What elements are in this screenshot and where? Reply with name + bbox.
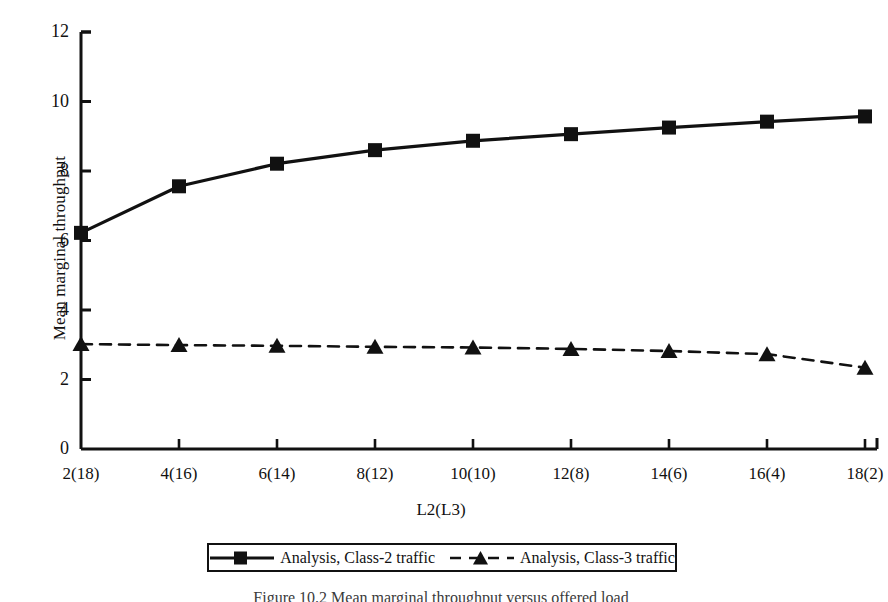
data-point-marker-square — [270, 157, 284, 171]
y-tick-label: 2 — [35, 370, 69, 388]
x-tick-label: 4(16) — [134, 465, 224, 483]
data-point-marker-square — [662, 121, 676, 135]
legend-key-triangle-dashed-icon — [449, 550, 515, 566]
x-tick-label: 8(12) — [330, 465, 420, 483]
legend-label-class2: Analysis, Class-2 traffic — [280, 549, 435, 566]
x-tick-label: 12(8) — [526, 465, 616, 483]
data-point-marker-square — [368, 143, 382, 157]
plot-area: Mean marginal throughput 024681012 2(18)… — [0, 0, 882, 470]
x-tick-label: 2(18) — [36, 465, 126, 483]
data-point-marker-square — [74, 226, 88, 240]
legend-entry-class3: Analysis, Class-3 traffic — [449, 549, 675, 566]
chart-svg — [0, 0, 882, 470]
x-tick-label: 14(6) — [624, 465, 714, 483]
legend-entry-class2: Analysis, Class-2 traffic — [209, 549, 435, 566]
x-axis-title: L2(L3) — [0, 500, 882, 520]
figure-caption: Figure 10.2 Mean marginal throughput ver… — [0, 589, 882, 602]
data-series-layer — [73, 109, 874, 374]
y-tick-label: 0 — [35, 439, 69, 457]
y-tick-label: 4 — [35, 300, 69, 318]
y-tick-label: 6 — [35, 231, 69, 249]
data-point-marker-square — [564, 127, 578, 141]
legend-key-square-solid-icon — [209, 550, 275, 566]
axis-lines — [81, 32, 877, 449]
data-point-marker-square — [858, 109, 872, 123]
y-tick-label: 10 — [35, 92, 69, 110]
x-tick-label: 18(2) — [820, 465, 888, 483]
data-point-marker-square — [466, 134, 480, 148]
data-point-marker-square — [172, 179, 186, 193]
y-tick-label: 8 — [35, 161, 69, 179]
legend-label-class3: Analysis, Class-3 traffic — [520, 549, 675, 566]
x-tick-label: 10(10) — [428, 465, 518, 483]
y-tick-label: 12 — [35, 22, 69, 40]
data-point-marker-square — [760, 115, 774, 129]
x-tick-label: 6(14) — [232, 465, 322, 483]
x-tick-label: 16(4) — [722, 465, 812, 483]
chart-legend: Analysis, Class-2 traffic Analysis, Clas… — [207, 543, 677, 572]
